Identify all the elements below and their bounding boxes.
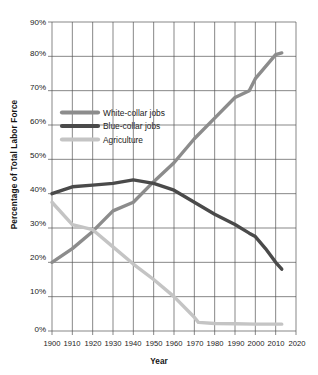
axis-ticks — [48, 22, 296, 335]
chart-container: Percentage of Total Labor Force Year 90%… — [0, 0, 318, 375]
series-line — [52, 202, 282, 324]
gridlines — [52, 22, 296, 331]
plot-area — [0, 0, 318, 375]
series-lines — [52, 53, 282, 324]
